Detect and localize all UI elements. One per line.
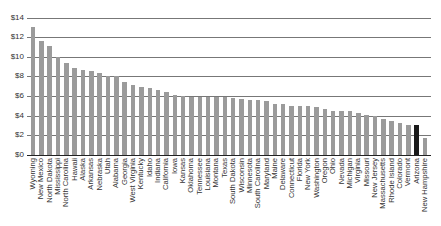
y-tick-label: $14 [11,14,24,22]
bar-rhode-island [389,121,394,155]
gridline [27,96,431,97]
bar-indiana [156,90,161,155]
bar-north-dakota [47,46,52,155]
bar-mississippi [56,57,61,155]
bar-west-virginia [131,85,136,155]
y-tick-label: $12 [11,33,24,41]
bar-kansas [181,96,186,155]
gridline [27,37,431,38]
x-axis-line [27,155,431,156]
bar-missouri [364,115,369,155]
bar-colorado [398,123,403,155]
bar-new-mexico [39,41,44,155]
bar-oklahoma [189,97,194,155]
bar-arkansas [89,71,94,155]
bar-louisiana [206,97,211,155]
bar-nebraska [97,73,102,155]
bar-arizona [414,125,419,155]
x-tick-label: New Hampshire [421,158,429,226]
bar-hawaii [72,68,77,155]
bar-alabama [114,76,119,155]
gridline [27,116,431,117]
bar-south-dakota [231,98,236,155]
bar-ohio [331,111,336,155]
x-tick-label: South Carolina [254,158,262,226]
bar-tennessee [198,97,203,155]
bar-oregon [323,109,328,155]
bar-texas [223,97,228,155]
bar-nevada [339,111,344,155]
bar-idaho [148,88,153,155]
bar-montana [214,97,219,155]
bar-delaware [281,104,286,155]
gridline [27,76,431,77]
bar-washington [314,107,319,155]
bar-utah [106,76,111,155]
bar-massachusetts [381,119,386,155]
bar-california [164,92,169,155]
bar-michigan [348,111,353,155]
bar-alaska [81,70,86,155]
bar-wisconsin [239,99,244,155]
bar-iowa [173,95,178,155]
y-tick-label: $6 [15,92,24,100]
bar-chart: $0$2$4$6$8$10$12$14 WyomingNew MexicoNor… [0,0,441,226]
gridline [27,18,431,19]
y-tick-label: $8 [15,72,24,80]
y-tick-label: $4 [15,112,24,120]
bar-virginia [356,113,361,155]
bar-new-jersey [373,116,378,155]
y-tick-label: $2 [15,131,24,139]
bar-north-carolina [64,63,69,155]
bar-south-carolina [256,100,261,155]
bar-maryland [264,101,269,155]
bar-minnesota [248,100,253,155]
bar-wyoming [31,27,36,155]
bar-connecticut [289,106,294,155]
y-tick-label: $10 [11,53,24,61]
bar-vermont [406,125,411,155]
x-tick-label: South Dakota [229,158,237,226]
bar-maine [273,104,278,155]
bar-florida [298,106,303,155]
bar-georgia [122,82,127,155]
x-tick-label: Delaware [279,158,287,226]
bar-kentucky [139,87,144,155]
gridline [27,135,431,136]
y-axis-labels: $0$2$4$6$8$10$12$14 [0,0,24,160]
gridline [27,57,431,58]
bar-new-hampshire [423,138,428,155]
bar-new-york [306,106,311,155]
y-tick-label: $0 [15,151,24,159]
